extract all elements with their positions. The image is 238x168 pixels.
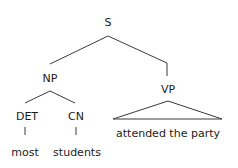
word-students: students <box>53 147 101 159</box>
word-most: most <box>11 147 39 159</box>
edge-np-det <box>25 91 50 103</box>
node-det: DET <box>16 111 38 123</box>
vp-content: attended the party <box>116 128 220 140</box>
edge-np-cn <box>50 91 75 103</box>
edge-s-vp <box>108 36 167 76</box>
syntax-tree <box>0 0 238 168</box>
node-cn: CN <box>68 111 84 123</box>
node-np: NP <box>43 73 58 85</box>
node-s: S <box>105 17 112 29</box>
node-vp: VP <box>161 84 175 96</box>
edge-s-np <box>50 36 108 64</box>
vp-triangle <box>113 101 222 119</box>
